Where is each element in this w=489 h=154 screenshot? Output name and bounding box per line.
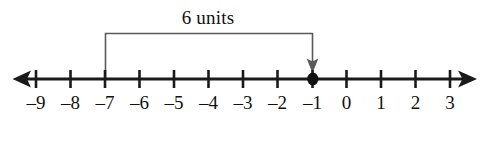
six-units-bracket (106, 34, 319, 80)
axis-line-group (13, 71, 478, 88)
tick-label--1: –1 (303, 93, 322, 112)
six-units-label: 6 units (182, 8, 235, 28)
tick-label--3: –3 (234, 93, 253, 112)
tick-label--4: –4 (199, 93, 218, 112)
tick-label-1: 1 (376, 93, 386, 112)
number-line-figure: 6 units –9 –8 –7 –6 –5 –4 –3 –2 –1 0 1 2… (0, 0, 489, 154)
tick-label--6: –6 (130, 93, 149, 112)
tick-label--9: –9 (27, 93, 46, 112)
tick-label-3: 3 (445, 93, 455, 112)
plotted-point-marker (307, 73, 318, 86)
tick-label--7: –7 (96, 93, 115, 112)
tick-label-2: 2 (411, 93, 421, 112)
tick-label-0: 0 (342, 93, 352, 112)
tick-label--5: –5 (165, 93, 184, 112)
tick-label--2: –2 (268, 93, 287, 112)
filled-dot-icon (307, 73, 318, 86)
number-line-canvas (0, 0, 489, 154)
tick-label--8: –8 (61, 93, 80, 112)
